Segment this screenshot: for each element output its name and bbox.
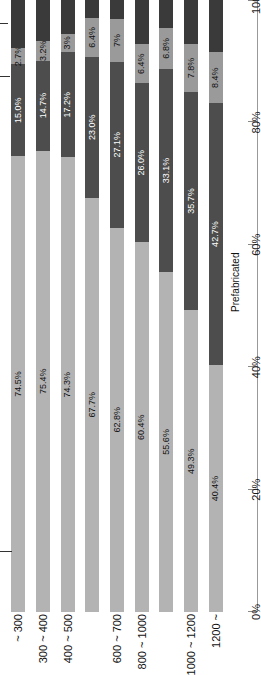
bar-segment-others — [36, 0, 50, 41]
segment-value-label: 35.7% — [187, 188, 196, 214]
bar-segment-others — [184, 0, 198, 44]
category-label: 400 ~ 500 — [61, 614, 75, 663]
bar-row: 67.7%23.0%6.4% — [85, 0, 99, 612]
bar-segment-prefabricated: 26.0% — [135, 83, 149, 242]
category-label: 1000 ~ 1200 — [184, 614, 198, 675]
bar-segment-prefabricated: 42.7% — [209, 103, 223, 364]
segment-value-label: 33.1% — [162, 158, 171, 184]
category-label: ~ 300 — [11, 614, 25, 642]
bar-segment-conventional-wooden: 55.6% — [159, 272, 173, 612]
category-label: 300 ~ 400 — [36, 614, 50, 663]
bar-segment-timber-frame: 2.7% — [11, 48, 25, 65]
segment-value-label: 74.5% — [14, 371, 23, 397]
bar-segment-timber-frame: 7% — [110, 19, 124, 62]
bar-segment-others — [11, 0, 25, 48]
segment-value-label: 6.4% — [137, 53, 146, 74]
segment-value-label: 7% — [113, 34, 122, 47]
bar-segment-conventional-wooden: 75.4% — [36, 151, 50, 612]
bar-segment-prefabricated: 14.7% — [36, 61, 50, 151]
segment-value-label: 3% — [63, 36, 72, 49]
segment-value-label: 17.2% — [63, 92, 72, 118]
segment-value-label: 49.3% — [187, 448, 196, 474]
bar-segment-others — [135, 0, 149, 44]
bar-row: 40.4%42.7%8.4% — [209, 0, 223, 612]
category-label: 800 ~ 1000 — [135, 614, 149, 669]
segment-value-label: 8.4% — [211, 68, 220, 89]
leader-line-others — [0, 23, 8, 24]
bar-row: 62.8%27.1%7% — [110, 0, 124, 612]
bar-segment-conventional-wooden: 60.4% — [135, 242, 149, 612]
bar-segment-prefabricated: 35.7% — [184, 92, 198, 310]
bar-segment-others — [85, 0, 99, 18]
bar-segment-others — [209, 0, 223, 52]
bar-segment-prefabricated: 17.2% — [61, 52, 75, 157]
bar-segment-others — [110, 0, 124, 19]
leader-line-conventional — [0, 551, 12, 552]
bar-segment-prefabricated: 15.0% — [11, 64, 25, 156]
bar-segment-others — [61, 0, 75, 34]
bar-segment-prefabricated: 23.0% — [85, 57, 99, 198]
bar-segment-timber-frame: 6.4% — [85, 18, 99, 57]
bar-segment-timber-frame: 8.4% — [209, 52, 223, 103]
bar-segment-prefabricated: 27.1% — [110, 62, 124, 228]
segment-value-label: 26.0% — [137, 150, 146, 176]
bar-segment-prefabricated: 33.1% — [159, 69, 173, 272]
leader-line-timber-frame — [0, 76, 10, 77]
bar-segment-timber-frame: 6.4% — [135, 44, 149, 83]
bar-segment-conventional-wooden: 67.7% — [85, 198, 99, 612]
bar-row: 49.3%35.7%7.8% — [184, 0, 198, 612]
segment-value-label: 27.1% — [113, 132, 122, 158]
segment-value-label: 3.2% — [39, 41, 48, 62]
bar-row: 75.4%14.7%3.2% — [36, 0, 50, 612]
bar-row: 74.5%15.0%2.7% — [11, 0, 25, 612]
bar-row: 74.3%17.2%3% — [61, 0, 75, 612]
bar-segment-conventional-wooden: 62.8% — [110, 228, 124, 612]
bar-row: 55.6%33.1%6.8% — [159, 0, 173, 612]
category-label: 1200 ~ — [209, 614, 223, 648]
segment-value-label: 7.8% — [187, 58, 196, 79]
segment-value-label: 6.4% — [88, 27, 97, 48]
segment-value-label: 23.0% — [88, 115, 97, 141]
bar-segment-timber-frame: 3.2% — [36, 41, 50, 61]
segment-value-label: 75.4% — [39, 369, 48, 395]
segment-value-label: 14.7% — [39, 93, 48, 119]
bar-segment-timber-frame: 3% — [61, 34, 75, 52]
segment-value-label: 55.6% — [162, 429, 171, 455]
bar-segment-timber-frame: 6.8% — [159, 28, 173, 70]
bar-segment-timber-frame: 7.8% — [184, 44, 198, 92]
segment-value-label: 2.7% — [14, 46, 23, 67]
segment-value-label: 42.7% — [211, 221, 220, 247]
category-label: 600 ~ 700 — [110, 614, 124, 663]
segment-value-label: 15.0% — [14, 97, 23, 123]
segment-value-label: 40.4% — [211, 476, 220, 502]
segment-value-label: 62.8% — [113, 407, 122, 433]
segment-value-label: 74.3% — [63, 372, 72, 398]
segment-value-label: 6.8% — [162, 38, 171, 59]
bar-segment-others — [159, 0, 173, 28]
segment-value-label: 60.4% — [137, 414, 146, 440]
bar-segment-conventional-wooden: 40.4% — [209, 365, 223, 612]
bar-row: 60.4%26.0%6.4% — [135, 0, 149, 612]
segment-value-label: 67.7% — [88, 392, 97, 418]
bar-segment-conventional-wooden: 74.3% — [61, 157, 75, 612]
bar-segment-conventional-wooden: 49.3% — [184, 310, 198, 612]
bar-segment-conventional-wooden: 74.5% — [11, 156, 25, 612]
series-label-prefabricated: Prefabricated — [230, 253, 241, 312]
